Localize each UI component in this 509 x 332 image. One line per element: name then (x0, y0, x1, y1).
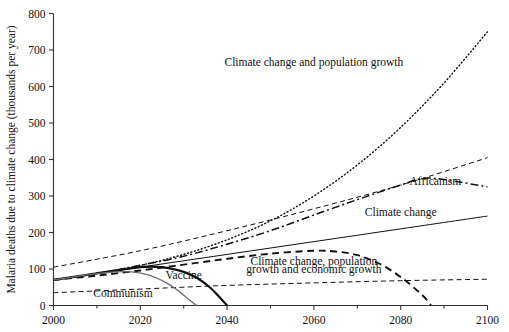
y-axis-title: Malaria deaths due to climate change (th… (5, 25, 18, 293)
x-tick-label: 2020 (129, 314, 152, 326)
x-tick-label: 2040 (216, 314, 239, 326)
chart-canvas: 0100200300400500600700800 20002020204020… (0, 0, 509, 332)
x-tick-label: 2000 (42, 314, 65, 326)
series-annotation-label: Climate change and population growth (224, 56, 403, 69)
series-annotation-label: Communism (93, 287, 152, 299)
y-tick-label: 100 (28, 263, 46, 275)
series-annotation-label: Vaccine (165, 269, 201, 281)
series-annotation-label: Africanism (410, 175, 462, 187)
x-tick-label: 2080 (389, 314, 412, 326)
malaria-deaths-line-chart: 0100200300400500600700800 20002020204020… (0, 0, 509, 332)
y-tick-label: 300 (28, 190, 46, 202)
y-tick-label: 600 (28, 81, 46, 93)
y-tick-label: 200 (28, 227, 46, 239)
y-axis-title-text: Malaria deaths due to climate change (th… (5, 25, 18, 293)
y-tick-label: 800 (28, 8, 46, 20)
y-tick-label: 500 (28, 117, 46, 129)
y-tick-label: 0 (40, 300, 46, 312)
y-axis-tick-labels: 0100200300400500600700800 (28, 8, 46, 312)
plot-background (0, 0, 509, 332)
y-tick-label: 400 (28, 154, 46, 166)
y-tick-label: 700 (28, 44, 46, 56)
series-annotation-label: growth and economic growth (246, 263, 381, 276)
x-tick-label: 2100 (476, 314, 499, 326)
x-tick-label: 2060 (302, 314, 325, 326)
series-annotation-label: Climate change (365, 206, 437, 219)
